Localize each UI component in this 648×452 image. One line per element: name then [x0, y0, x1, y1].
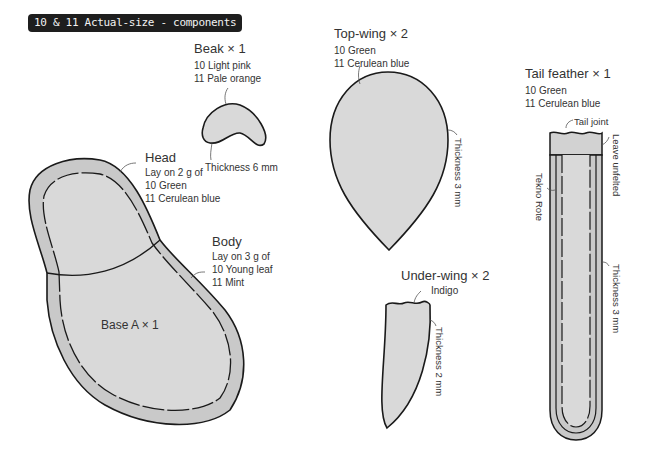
beak-title: Beak × 1: [194, 41, 246, 56]
topwing-thickness: Thickness 3 mm: [453, 138, 464, 207]
tail-title: Tail feather × 1: [525, 66, 611, 81]
tail-unfelted-label: Leave unfelted: [611, 134, 622, 196]
topwing-shape: [330, 72, 448, 250]
underwing-title: Under-wing × 2: [401, 268, 490, 283]
underwing-shape: [382, 301, 430, 428]
tail-color-11: 11 Cerulean blue: [525, 97, 600, 110]
pattern-sheet: 10 & 11 Actual-size - components Beak × …: [0, 0, 648, 452]
topwing-title: Top-wing × 2: [334, 26, 408, 41]
body-color-11: 11 Mint: [212, 276, 244, 289]
underwing-color: Indigo: [431, 284, 458, 297]
tail-thickness: Thickness 3 mm: [611, 264, 622, 333]
beak-thickness: Thickness 6 mm: [205, 161, 278, 174]
body-title: Body: [212, 234, 242, 249]
tail-rope-label: Tekno Rote: [534, 173, 545, 221]
head-title: Head: [145, 150, 176, 165]
underwing-thickness: Thickness 2 mm: [434, 327, 445, 396]
topwing-color-10: 10 Green: [334, 44, 376, 57]
body-lay: Lay on 3 g of: [212, 250, 270, 263]
tail-joint-label: Tail joint: [574, 115, 608, 128]
beak-color-10: 10 Light pink: [194, 59, 251, 72]
head-color-11: 11 Cerulean blue: [145, 192, 220, 205]
body-color-10: 10 Young leaf: [212, 263, 273, 276]
page-title-badge: 10 & 11 Actual-size - components: [28, 14, 242, 32]
head-lay: Lay on 2 g of: [145, 166, 203, 179]
tail-shape: [547, 120, 609, 440]
topwing-color-11: 11 Cerulean blue: [334, 57, 409, 70]
head-color-10: 10 Green: [145, 179, 187, 192]
beak-shape: [202, 104, 265, 146]
base-a-label: Base A × 1: [101, 318, 159, 332]
beak-color-11: 11 Pale orange: [194, 72, 261, 85]
tail-color-10: 10 Green: [525, 84, 567, 97]
